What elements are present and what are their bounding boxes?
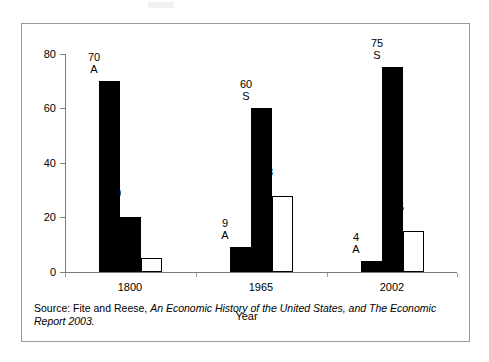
figure-frame: 80 60 40 20 0 70 A: [21, 23, 470, 342]
bar-label-code: S: [100, 199, 130, 211]
x-axis-line: [65, 272, 457, 273]
bar-label-code: S: [362, 49, 392, 61]
bar-label-value: 28: [252, 166, 282, 178]
bar-label-code: M: [121, 240, 151, 252]
bar-label-1800-services: 20 S: [100, 187, 130, 211]
bar-1965-services[interactable]: [251, 108, 272, 272]
y-tick-label-20: 20: [32, 212, 56, 223]
bar-2002-manufacturing[interactable]: [403, 231, 424, 272]
source-note: Source: Fite and Reese, An Economic Hist…: [34, 302, 459, 328]
x-group-label-2002: 2002: [370, 281, 414, 293]
bar-label-1965-manufacturing: 28 M: [252, 166, 282, 190]
bar-label-value: 15: [383, 201, 413, 213]
bar-label-value: 9: [210, 217, 240, 229]
bar-2002-agriculture[interactable]: [361, 261, 382, 272]
bar-label-value: 60: [231, 78, 261, 90]
y-tick-label-0: 0: [32, 267, 56, 278]
bar-2002-services[interactable]: [382, 67, 403, 272]
bar-1965-agriculture[interactable]: [230, 247, 251, 272]
x-group-label-1965: 1965: [239, 281, 283, 293]
x-tick-mark-right: [457, 273, 458, 277]
bar-1800-agriculture[interactable]: [99, 81, 120, 272]
bar-label-value: 20: [100, 187, 130, 199]
bar-label-2002-manufacturing: 15 M: [383, 201, 413, 225]
bar-label-2002-agriculture: 4 A: [341, 231, 371, 255]
y-tick-label-60: 60: [32, 103, 56, 114]
scan-artifact: [148, 2, 174, 8]
bar-label-code: S: [231, 90, 261, 102]
bar-label-2002-services: 75 S: [362, 37, 392, 61]
bar-label-1965-services: 60 S: [231, 78, 261, 102]
x-tick-mark-2: [327, 273, 328, 277]
bar-label-value: 70: [79, 51, 109, 63]
y-tick-label-40: 40: [32, 158, 56, 169]
bar-label-code: A: [341, 243, 371, 255]
y-tick-label-80: 80: [32, 49, 56, 60]
bar-label-1800-manufacturing: 5 M: [121, 228, 151, 252]
bar-label-code: M: [252, 178, 282, 190]
x-tick-mark-1: [196, 273, 197, 277]
bar-label-value: 4: [341, 231, 371, 243]
x-tick-mark-left: [65, 273, 66, 277]
bar-1965-manufacturing[interactable]: [272, 196, 293, 272]
bar-label-code: M: [383, 213, 413, 225]
bar-label-1965-agriculture: 9 A: [210, 217, 240, 241]
bar-label-code: A: [210, 229, 240, 241]
bar-label-value: 75: [362, 37, 392, 49]
plot-region: 80 60 40 20 0 70 A: [22, 24, 471, 343]
bar-label-code: A: [79, 63, 109, 75]
bar-1800-manufacturing[interactable]: [141, 258, 162, 272]
bar-label-1800-agriculture: 70 A: [79, 51, 109, 75]
source-note-prefix: Source: Fite and Reese,: [34, 302, 150, 314]
bar-label-value: 5: [121, 228, 151, 240]
x-group-label-1800: 1800: [108, 281, 152, 293]
